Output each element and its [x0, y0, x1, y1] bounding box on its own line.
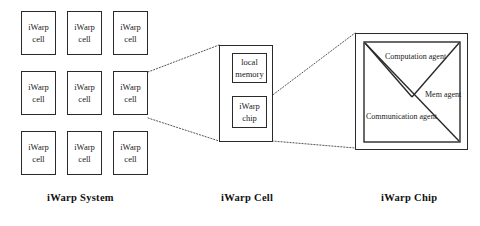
- cell-label-line2: cell: [78, 93, 90, 105]
- cell-label-line2: cell: [32, 153, 44, 165]
- cell-label-line2: cell: [32, 33, 44, 45]
- iwarp-cell-r1c2: iWarp cell: [67, 11, 102, 55]
- cell-label-line2: cell: [124, 153, 136, 165]
- connector-system-to-cell-bottom: [148, 118, 219, 141]
- cell-label-line1: iWarp: [28, 81, 49, 93]
- mem-agent-label-line1: Mem: [425, 90, 442, 99]
- communication-agent-label-line2: agent: [420, 112, 437, 121]
- iwarp-cell-r2c2: iWarp cell: [67, 71, 102, 115]
- computation-agent-label-line1: Computation: [385, 52, 427, 61]
- cell-label-line2: cell: [32, 93, 44, 105]
- iwarp-cell-r3c1: iWarp cell: [21, 131, 56, 175]
- communication-agent-label: Communication agent: [366, 112, 437, 122]
- iwarp-cell-r1c1: iWarp cell: [21, 11, 56, 55]
- cell-label-line1: iWarp: [74, 81, 95, 93]
- cell-label-line2: cell: [124, 33, 136, 45]
- cell-label-line2: cell: [124, 93, 136, 105]
- cell-label-line1: iWarp: [28, 141, 49, 153]
- cell-label-line1: iWarp: [120, 81, 141, 93]
- computation-agent-label: Computation agent: [385, 52, 446, 62]
- iwarp-cell-r3c2: iWarp cell: [67, 131, 102, 175]
- connector-system-to-cell-top: [148, 45, 219, 72]
- mem-agent-label-line2: agent: [444, 90, 461, 99]
- iwarp-cell-r1c3: iWarp cell: [113, 11, 148, 55]
- mem-agent-label: Mem agent: [425, 90, 461, 100]
- connector-cell-to-chip-top: [266, 33, 355, 100]
- iwarp-chip-label-line2: chip: [242, 112, 257, 124]
- cell-label-line1: iWarp: [120, 21, 141, 33]
- cell-label-line1: iWarp: [74, 21, 95, 33]
- iwarp-cell-r2c1: iWarp cell: [21, 71, 56, 115]
- caption-iwarp-chip: iWarp Chip: [381, 192, 437, 203]
- local-memory-label-line1: local: [241, 56, 258, 68]
- communication-agent-label-line1: Communication: [366, 112, 418, 121]
- connector-cell-to-chip-bottom: [272, 141, 355, 148]
- caption-iwarp-system: iWarp System: [47, 192, 114, 203]
- cell-label-line1: iWarp: [28, 21, 49, 33]
- cell-label-line2: cell: [78, 153, 90, 165]
- diagram-canvas: iWarp cell iWarp cell iWarp cell iWarp c…: [0, 0, 480, 226]
- caption-iwarp-cell: iWarp Cell: [221, 192, 273, 203]
- cell-label-line1: iWarp: [74, 141, 95, 153]
- cell-label-line2: cell: [78, 33, 90, 45]
- cell-label-line1: iWarp: [120, 141, 141, 153]
- iwarp-cell-r3c3: iWarp cell: [113, 131, 148, 175]
- computation-agent-label-line2: agent: [429, 52, 446, 61]
- iwarp-chip-label-line1: iWarp: [239, 100, 260, 112]
- local-memory-label-line2: memory: [235, 68, 263, 80]
- local-memory-box: local memory: [232, 53, 267, 83]
- iwarp-chip-box: iWarp chip: [232, 96, 267, 128]
- iwarp-cell-r2c3: iWarp cell: [113, 71, 148, 115]
